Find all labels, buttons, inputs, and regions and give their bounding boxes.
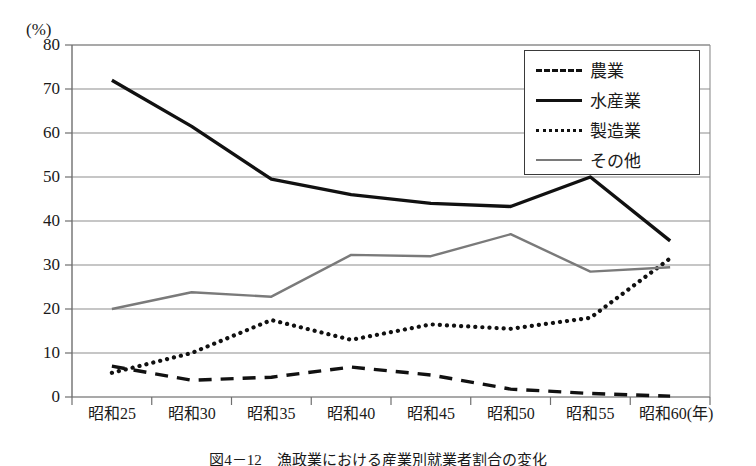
- x-tick-label: 昭和30: [168, 400, 216, 424]
- legend-swatch-dotted-icon: [534, 122, 584, 136]
- x-tick-label: 昭和45: [407, 400, 455, 424]
- legend-swatch-dashed-icon: [534, 62, 584, 76]
- figure-caption: 図4－12 漁政業における産業別就業者割合の変化: [0, 448, 756, 466]
- legend-swatch-gray-icon: [534, 152, 584, 166]
- legend-item-sonota: その他: [525, 144, 699, 174]
- x-tick-label: 昭和40: [327, 400, 375, 424]
- legend-item-suisangyo: 水産業: [525, 84, 699, 114]
- x-tick-label: 昭和55: [566, 400, 614, 424]
- y-tick-label: 0: [18, 387, 60, 407]
- x-tick-label: 昭和60(年): [639, 400, 714, 424]
- series-line-その他: [112, 234, 670, 309]
- y-tick-label: 50: [18, 167, 60, 187]
- legend-item-seizogyo: 製造業: [525, 114, 699, 144]
- y-tick-label: 80: [18, 35, 60, 55]
- y-tick-label: 10: [18, 343, 60, 363]
- y-tick-label: 30: [18, 255, 60, 275]
- chart-legend: 農業 水産業 製造業 その他: [524, 50, 700, 175]
- chart-figure: (%) 80706050403020100 昭和25昭和30昭和35昭和40昭和…: [0, 0, 756, 466]
- x-tick-label: 昭和50: [487, 400, 535, 424]
- series-line-製造業: [112, 258, 670, 372]
- legend-label: 水産業: [584, 87, 641, 112]
- legend-label: その他: [584, 147, 641, 172]
- legend-swatch-solid-icon: [534, 92, 584, 106]
- y-tick-label: 70: [18, 79, 60, 99]
- legend-label: 製造業: [584, 117, 641, 142]
- y-tick-label: 60: [18, 123, 60, 143]
- x-tick-label: 昭和25: [88, 400, 136, 424]
- series-line-農業: [112, 366, 670, 396]
- y-tick-label: 20: [18, 299, 60, 319]
- legend-item-nogyo: 農業: [525, 54, 699, 84]
- x-tick-label: 昭和35: [247, 400, 295, 424]
- y-tick-label: 40: [18, 211, 60, 231]
- legend-label: 農業: [584, 57, 624, 82]
